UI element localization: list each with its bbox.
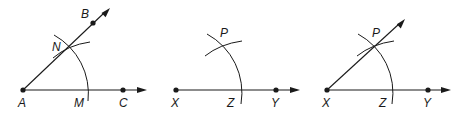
label-y: Y [423, 96, 432, 110]
arrowhead-icon [137, 87, 147, 93]
label-p: P [372, 26, 380, 40]
label-a: A [17, 96, 26, 110]
label-m: M [74, 96, 84, 110]
point-c [120, 87, 125, 92]
label-p: P [220, 26, 228, 40]
label-x: X [170, 96, 180, 110]
label-n: N [52, 40, 61, 54]
point-y [425, 87, 430, 92]
label-b: B [81, 7, 89, 21]
arc-centered-x [358, 34, 393, 104]
label-z: Z [226, 96, 235, 110]
label-y: Y [271, 96, 280, 110]
label-x: X [321, 96, 331, 110]
panel-1: A B N M C [17, 7, 147, 110]
panel-2: P X Z Y [170, 26, 300, 110]
point-y [273, 87, 278, 92]
arrowhead-icon [441, 87, 451, 93]
arc-centered-x [207, 34, 242, 104]
point-a [20, 87, 25, 92]
arrowhead-icon [397, 19, 405, 28]
arrowhead-icon [290, 87, 300, 93]
point-x [173, 87, 178, 92]
panel-3: P X Z Y [321, 19, 451, 110]
angle-construction-diagram: A B N M C P X Z Y P X Z Y [0, 0, 466, 113]
ray-xp [327, 24, 399, 90]
label-c: C [119, 96, 128, 110]
point-b [90, 20, 95, 25]
point-x [324, 87, 329, 92]
label-z: Z [378, 96, 387, 110]
arrowhead-icon [102, 8, 111, 17]
arc-centered-z [205, 41, 242, 56]
arc-centered-z [357, 41, 394, 56]
